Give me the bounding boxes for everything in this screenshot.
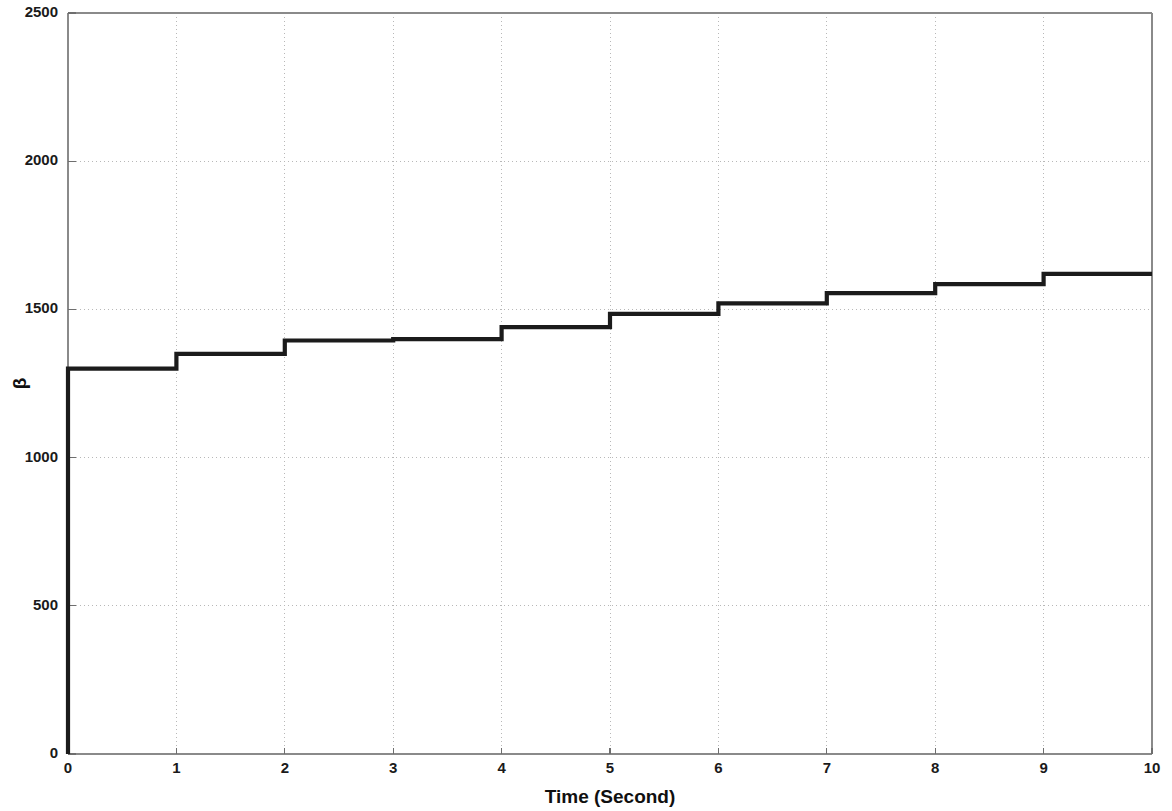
- x-tick-label: 6: [714, 759, 722, 776]
- x-tick-label: 9: [1039, 759, 1047, 776]
- x-tick-label: 3: [389, 759, 397, 776]
- chart-figure: 012345678910 05001000150020002500 Time (…: [0, 0, 1172, 811]
- plot-background: [68, 13, 1152, 754]
- x-tick-label: 0: [64, 759, 72, 776]
- x-tick-label: 4: [497, 759, 506, 776]
- x-axis-tick-labels: 012345678910: [64, 759, 1161, 776]
- y-tick-label: 2000: [25, 151, 58, 168]
- x-tick-label: 8: [931, 759, 939, 776]
- y-tick-label: 0: [50, 744, 58, 761]
- y-tick-label: 500: [33, 596, 58, 613]
- x-tick-label: 2: [281, 759, 289, 776]
- y-axis-title: β: [9, 378, 30, 390]
- x-tick-label: 5: [606, 759, 614, 776]
- y-tick-label: 1000: [25, 448, 58, 465]
- plot-canvas: 012345678910 05001000150020002500 Time (…: [0, 0, 1172, 811]
- y-tick-label: 1500: [25, 299, 58, 316]
- x-tick-label: 7: [823, 759, 831, 776]
- x-tick-label: 1: [172, 759, 180, 776]
- y-tick-label: 2500: [25, 3, 58, 20]
- x-tick-label: 10: [1144, 759, 1161, 776]
- x-axis-title: Time (Second): [545, 786, 676, 807]
